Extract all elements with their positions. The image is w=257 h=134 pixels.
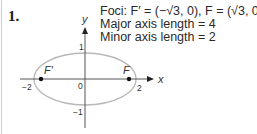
- focus-left-label: F′: [44, 64, 54, 76]
- focus-left-point: [39, 77, 43, 81]
- y-tick-neg1: −1: [73, 107, 83, 117]
- y-axis-label: y: [81, 13, 89, 25]
- focus-right-point: [127, 77, 131, 81]
- origin-label: 0: [78, 81, 83, 91]
- y-tick-1: 1: [79, 42, 84, 52]
- x-tick-neg2: −2: [22, 82, 32, 92]
- x-axis-label: x: [157, 73, 164, 85]
- ellipse-graph: x y 0 −2 2 1 −1 F′ F: [0, 0, 257, 134]
- x-axis-arrow-icon: [147, 76, 154, 82]
- y-axis-arrow-icon: [82, 27, 88, 34]
- x-tick-2: 2: [137, 83, 142, 93]
